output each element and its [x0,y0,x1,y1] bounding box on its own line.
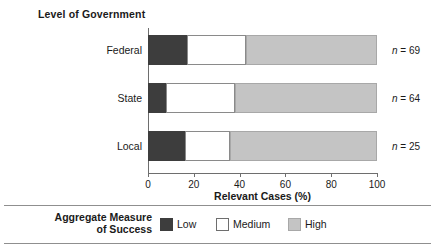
bar-segment-state-medium [166,83,235,113]
bar-segment-local-medium [185,131,231,161]
bar-segment-federal-medium [187,35,247,65]
sample-size-local: n = 25 [392,141,420,152]
x-tick-label-100: 100 [369,179,386,190]
legend-title: Aggregate Measure of Success [40,211,152,235]
legend-title-line-1: Aggregate Measure [40,211,152,223]
bar-row-state [148,83,377,113]
page-title: Level of Government [38,8,145,20]
x-tick-mark-0 [148,173,149,177]
plot-area: 0 20 40 60 80 100 [148,28,377,173]
bar-row-federal [148,35,377,65]
x-tick-mark-80 [331,173,332,177]
bar-segment-state-low [148,83,166,113]
x-tick-label-40: 40 [234,179,245,190]
legend-item-medium[interactable]: Medium [216,217,270,231]
x-axis-title: Relevant Cases (%) [148,190,377,202]
legend-title-line-2: of Success [40,223,152,235]
legend-swatch-medium-icon [216,218,229,231]
bar-segment-federal-high [246,35,377,65]
legend-item-high[interactable]: High [288,217,327,231]
x-tick-mark-100 [377,173,378,177]
x-tick-mark-20 [194,173,195,177]
x-tick-label-60: 60 [280,179,291,190]
x-tick-mark-40 [240,173,241,177]
category-label-federal: Federal [32,44,142,56]
x-tick-label-0: 0 [145,179,151,190]
x-tick-mark-60 [285,173,286,177]
x-axis-line [148,173,378,174]
bar-segment-federal-low [148,35,187,65]
legend-label-medium: Medium [233,218,270,230]
bar-segment-state-high [235,83,377,113]
sample-size-federal: n = 69 [392,45,420,56]
legend-label-high: High [305,218,327,230]
sample-size-state: n = 64 [392,93,420,104]
category-label-local: Local [32,140,142,152]
legend-label-low: Low [177,218,196,230]
bar-row-local [148,131,377,161]
legend-swatch-high-icon [288,218,301,231]
legend-item-low[interactable]: Low [160,217,196,231]
legend-divider-top [4,205,431,206]
x-tick-label-20: 20 [188,179,199,190]
bar-segment-local-high [230,131,377,161]
legend-divider-bottom [4,243,431,244]
x-tick-label-80: 80 [326,179,337,190]
category-label-state: State [32,92,142,104]
stacked-bar-chart-figure: Level of Government 0 20 4 [0,0,435,248]
bar-segment-local-low [148,131,185,161]
legend-swatch-low-icon [160,218,173,231]
